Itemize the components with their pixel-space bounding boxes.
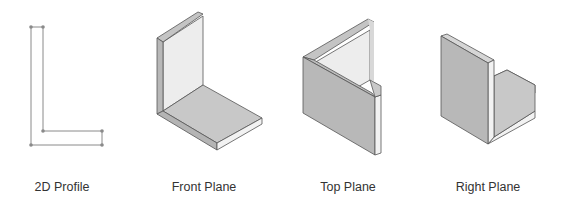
caption-top-plane: Top Plane	[320, 180, 376, 194]
profile-sketch	[29, 25, 104, 147]
diagram-canvas	[0, 0, 583, 209]
caption-right-plane: Right Plane	[456, 180, 521, 194]
caption-2d-profile: 2D Profile	[35, 180, 90, 194]
caption-front-plane: Front Plane	[172, 180, 237, 194]
top-plane-solid	[303, 19, 381, 155]
sketch-vertices	[29, 25, 104, 147]
front-plane-solid	[157, 12, 262, 150]
right-plane-solid	[441, 34, 535, 144]
